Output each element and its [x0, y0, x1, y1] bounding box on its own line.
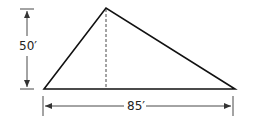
base-dimension: 85′: [43, 96, 233, 116]
height-label: 50′: [19, 39, 37, 53]
triangle-shape: [44, 8, 235, 89]
height-dimension: 50′: [19, 9, 37, 89]
triangle-diagram: 50′ 85′: [0, 0, 253, 122]
base-label: 85′: [127, 99, 145, 113]
